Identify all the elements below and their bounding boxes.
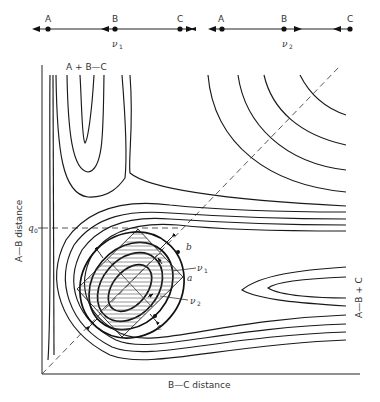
atom-c: [347, 26, 352, 31]
nu2-label: ν: [282, 39, 288, 49]
arrow-icon: [98, 251, 103, 258]
atom-b: [112, 26, 117, 31]
mode-nu2-diagram: A B C ν 2: [190, 14, 353, 50]
region-label-top: A + B—C: [66, 62, 107, 72]
atom-label-c: C: [177, 14, 183, 24]
arrow-left-icon: [333, 26, 341, 32]
label-nu1: ν: [197, 263, 203, 273]
atom-label-a: A: [45, 14, 52, 24]
label-c: c: [157, 322, 162, 332]
nu2-subscript: 2: [289, 43, 293, 50]
q0-subscript: 0: [34, 227, 38, 234]
arrow-left-icon: [190, 27, 196, 31]
arrow-left-icon: [208, 26, 216, 32]
atom-c: [177, 26, 182, 31]
contours-exit-valley: [242, 267, 346, 306]
atom-label-a: A: [218, 14, 225, 24]
atom-label-b: B: [112, 14, 118, 24]
arrow-right-icon: [294, 26, 302, 32]
pes-diagram: A B C ν 1 A B C ν 2: [0, 0, 380, 402]
nu1-label: ν: [112, 39, 118, 49]
label-nu2: ν: [190, 296, 196, 306]
y-axis-label: A—B distance: [14, 199, 24, 262]
mode-nu1-diagram: A B C ν 1: [32, 14, 194, 50]
nu2-leader-line: [160, 296, 188, 300]
nu1-subscript: 1: [119, 43, 123, 50]
arrow-left-icon: [101, 26, 109, 32]
label-nu1-sub: 1: [204, 267, 208, 274]
atom-b: [281, 26, 286, 31]
label-nu2-sub: 2: [197, 300, 201, 307]
atom-a: [219, 26, 224, 31]
contours-plateau: [130, 75, 346, 206]
arrow-left-icon: [32, 26, 40, 32]
atom-label-c: C: [347, 14, 353, 24]
atom-a: [45, 26, 50, 31]
label-a: a: [187, 273, 192, 283]
region-label-right: A—B + C: [354, 277, 364, 318]
atom-label-b: B: [281, 14, 287, 24]
point-c-dot: [153, 314, 157, 318]
label-b: b: [186, 242, 192, 252]
x-axis-label: B—C distance: [168, 380, 231, 390]
point-b-dot: [176, 250, 180, 254]
